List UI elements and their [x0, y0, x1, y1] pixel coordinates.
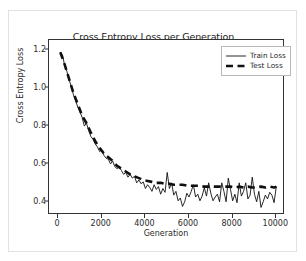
x-tick-label: 2000	[91, 219, 111, 228]
x-tick-label: 10000	[263, 219, 288, 228]
plot-area: Train Loss Test Loss	[48, 39, 284, 214]
y-tick-label: 0.8	[20, 121, 46, 130]
y-tick-label: 0.4	[20, 196, 46, 205]
legend-solid-line-icon	[226, 51, 246, 61]
y-tick-label: 0.6	[20, 158, 46, 167]
legend-label-train-loss: Train Loss	[250, 51, 286, 61]
y-axis-ticks: 0.40.60.81.01.2	[18, 39, 46, 214]
chart-legend: Train Loss Test Loss	[221, 46, 291, 76]
x-tick-label: 6000	[178, 219, 198, 228]
legend-item-train-loss: Train Loss	[226, 51, 286, 61]
x-tick-label: 8000	[221, 219, 241, 228]
y-tick-label: 1.0	[20, 83, 46, 92]
figure-frame: Cross Entropy Loss per Generation Cross …	[8, 10, 297, 252]
legend-label-test-loss: Test Loss	[250, 61, 283, 71]
x-tick-label: 4000	[134, 219, 154, 228]
x-axis-ticks: 0200040006000800010000	[48, 214, 284, 234]
legend-item-test-loss: Test Loss	[226, 61, 286, 71]
y-tick-label: 1.2	[20, 45, 46, 54]
x-tick-label: 0	[55, 219, 60, 228]
legend-dashed-line-icon	[226, 61, 246, 71]
